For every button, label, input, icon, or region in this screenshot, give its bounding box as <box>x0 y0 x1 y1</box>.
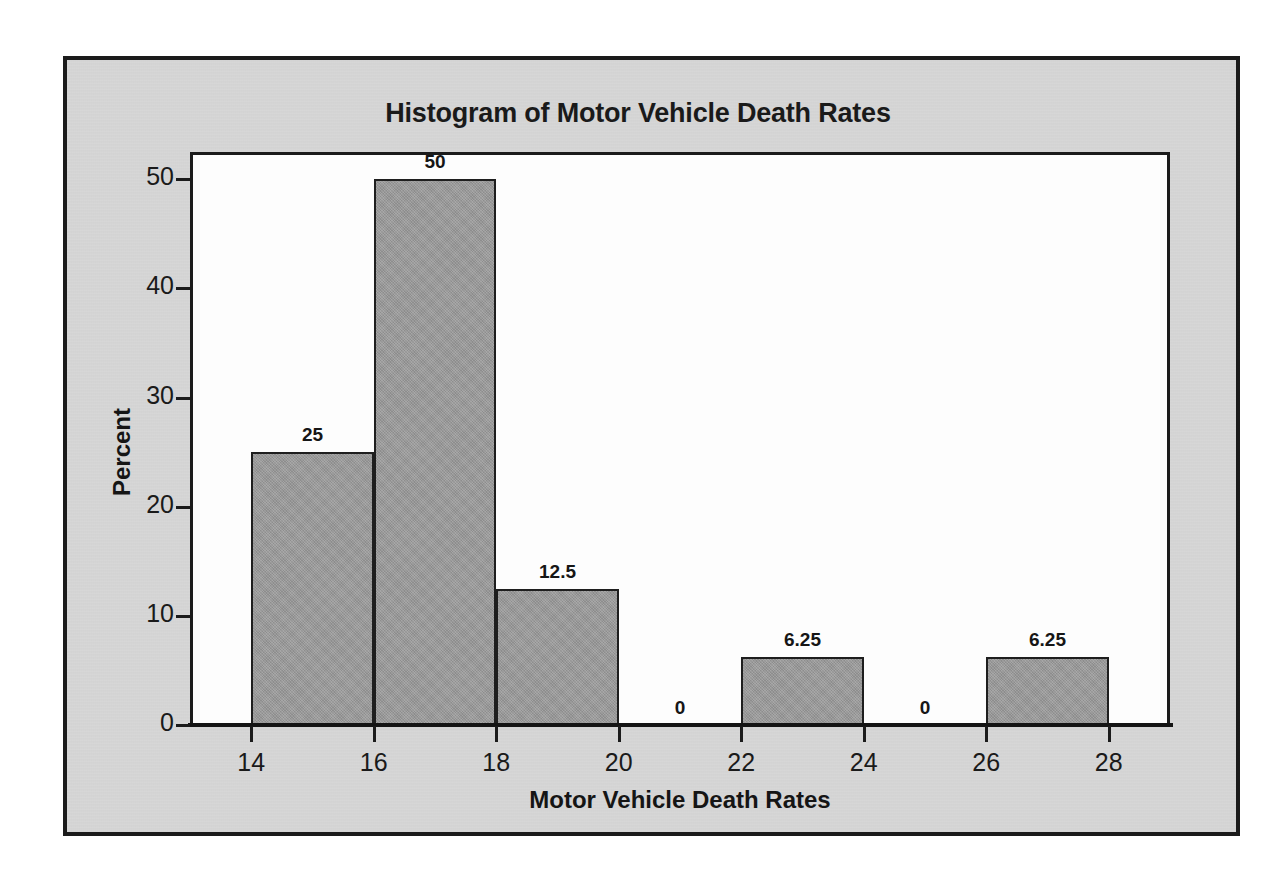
y-axis-tick-label: 30 <box>146 381 174 410</box>
histogram-bar <box>251 452 374 725</box>
y-axis-tick-label: 50 <box>146 162 174 191</box>
x-axis-tick-mark <box>985 726 988 742</box>
scanned-page: Histogram of Motor Vehicle Death Rates R… <box>0 0 1276 887</box>
y-axis-tick-mark <box>176 506 190 509</box>
y-axis-tick-mark <box>176 178 190 181</box>
bar-value-label: 25 <box>251 424 374 446</box>
x-axis-tick-label: 20 <box>584 748 654 777</box>
histogram-bar <box>741 657 864 725</box>
x-axis-tick-mark <box>863 726 866 742</box>
x-axis-tick-mark <box>250 726 253 742</box>
y-axis-tick-mark <box>176 724 190 727</box>
x-axis-tick-mark <box>495 726 498 742</box>
histogram-bar <box>374 179 497 725</box>
y-axis-tick-mark <box>176 397 190 400</box>
y-axis-tick-label: 10 <box>146 599 174 628</box>
x-axis-tick-label: 18 <box>461 748 531 777</box>
x-axis-line <box>188 723 1173 727</box>
bar-value-label: 12.5 <box>496 561 619 583</box>
y-axis-tick-mark <box>176 615 190 618</box>
y-axis-title: Percent <box>108 408 136 496</box>
x-axis-tick-mark <box>740 726 743 742</box>
histogram-bar <box>496 589 619 725</box>
bar-value-label: 50 <box>374 151 497 173</box>
x-axis-tick-label: 28 <box>1074 748 1144 777</box>
x-axis-tick-label: 22 <box>706 748 776 777</box>
bar-value-label: 6.25 <box>986 629 1109 651</box>
bar-value-label: 0 <box>864 697 987 719</box>
x-axis-tick-mark <box>1108 726 1111 742</box>
y-axis-tick-label: 20 <box>146 490 174 519</box>
y-axis-tick-label: 40 <box>146 271 174 300</box>
x-axis-tick-mark <box>373 726 376 742</box>
x-axis-tick-label: 14 <box>216 748 286 777</box>
chart-title: Histogram of Motor Vehicle Death Rates <box>0 98 1276 129</box>
x-axis-tick-label: 16 <box>339 748 409 777</box>
histogram-bar <box>986 657 1109 725</box>
bar-value-label: 0 <box>619 697 742 719</box>
bar-value-label: 6.25 <box>741 629 864 651</box>
x-axis-tick-label: 24 <box>829 748 899 777</box>
histogram-bars: 255012.506.2506.25 <box>190 152 1170 725</box>
x-axis-tick-mark <box>618 726 621 742</box>
y-axis-tick-mark <box>176 287 190 290</box>
x-axis-tick-label: 26 <box>951 748 1021 777</box>
y-axis-tick-label: 0 <box>160 708 174 737</box>
x-axis-title: Motor Vehicle Death Rates <box>190 786 1170 814</box>
